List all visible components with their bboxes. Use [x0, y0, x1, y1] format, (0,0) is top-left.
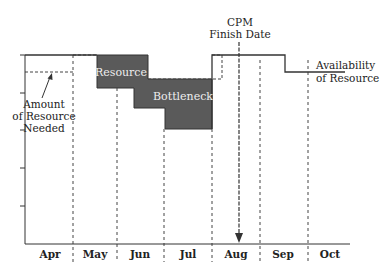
month-label-may: May: [83, 248, 108, 260]
needed-label-line1: Amount: [22, 98, 65, 110]
cpm-label-line2: Finish Date: [209, 28, 270, 40]
resource-bottleneck-diagram: CPM Finish Date Amount of Resource Neede…: [0, 0, 385, 278]
availability-label-line2: of Resource: [316, 72, 379, 84]
month-label-jun: Jun: [129, 248, 151, 260]
needed-label-line2: of Resource: [12, 110, 75, 122]
cpm-label-line1: CPM: [227, 16, 253, 28]
month-label-sep: Sep: [272, 248, 294, 260]
needed-pointer-arrow-line: [42, 77, 50, 98]
month-label-oct: Oct: [320, 248, 341, 260]
month-label-jul: Jul: [179, 248, 197, 260]
month-label-apr: Apr: [38, 248, 60, 260]
cpm-finish-arrowhead-icon: [235, 233, 243, 243]
bottleneck-label-resource: Resource: [95, 66, 147, 79]
needed-pointer-arrowhead-icon: [48, 73, 53, 80]
bottleneck-label-bottleneck: Bottleneck: [153, 90, 213, 103]
availability-label-line1: Availability: [315, 59, 375, 71]
needed-label-line3: Needed: [23, 122, 65, 134]
month-label-aug: Aug: [223, 248, 248, 260]
